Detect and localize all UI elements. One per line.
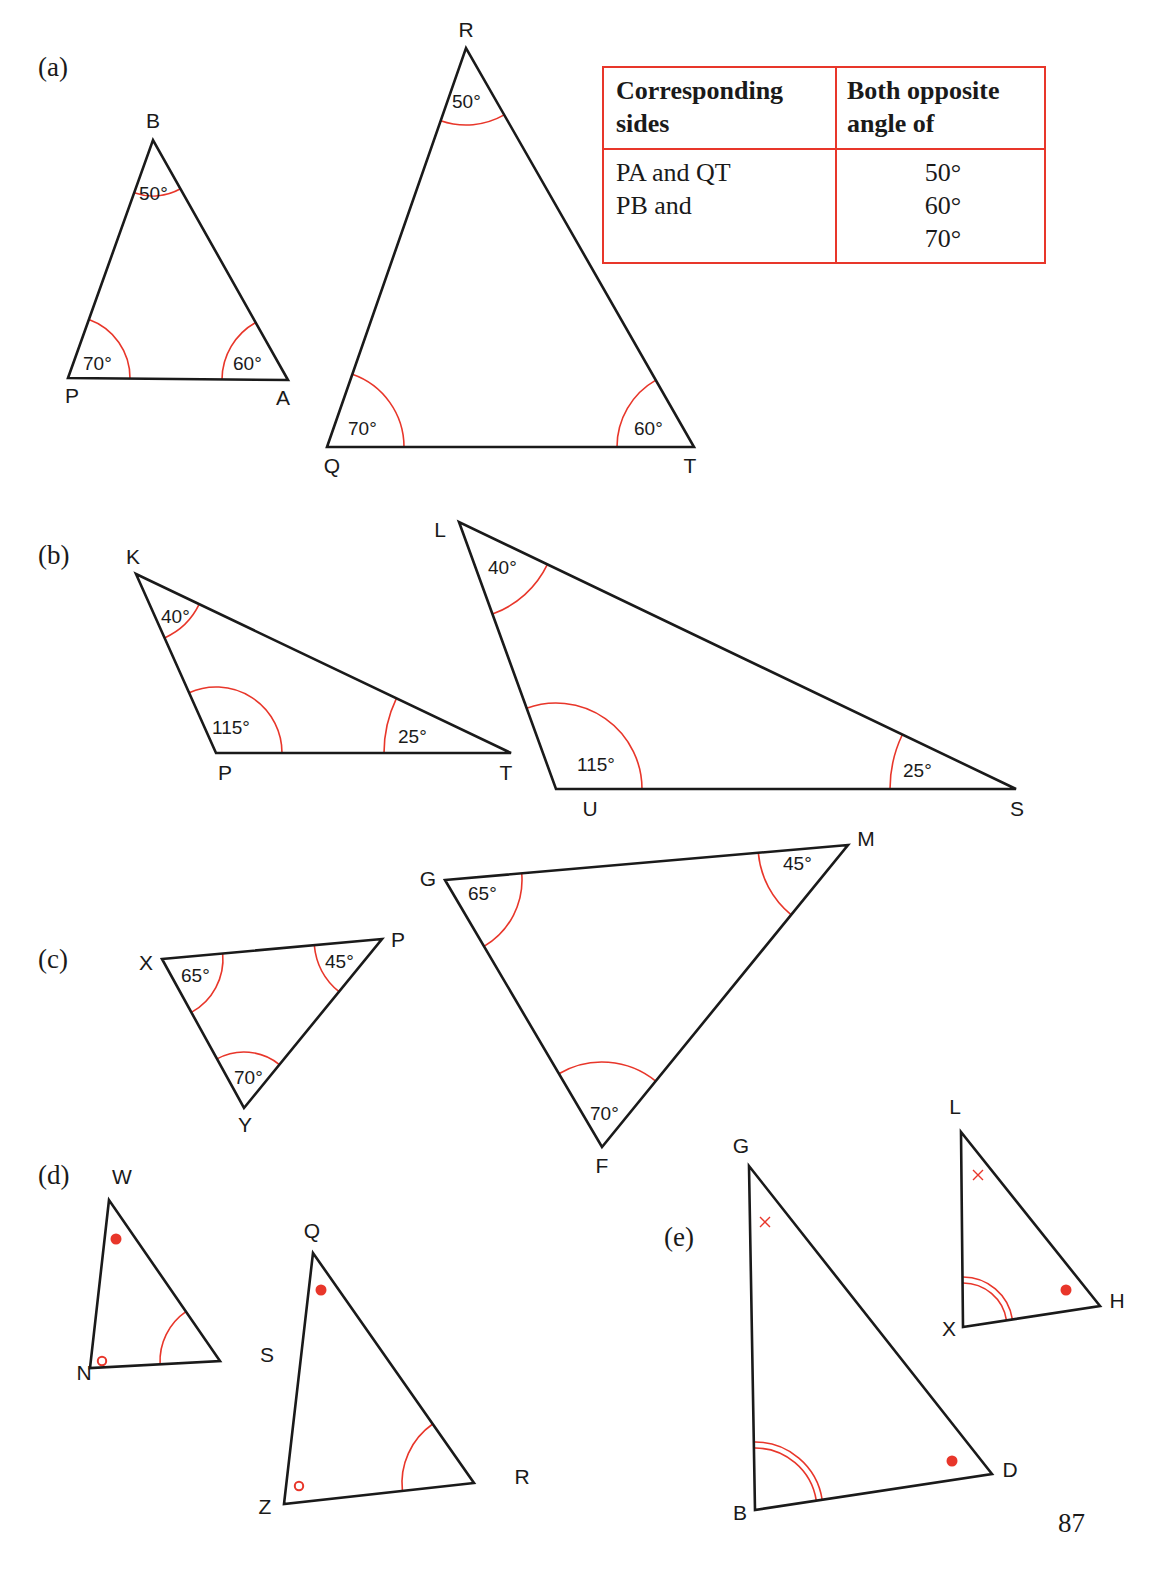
- angle-value-label: 25°: [398, 726, 427, 747]
- vertex-label-S: S: [1010, 797, 1024, 820]
- angle-value-label: 60°: [634, 418, 663, 439]
- table-column-angles: 50° 60° 70°: [904, 156, 982, 255]
- angle-value-label: 50°: [139, 183, 168, 204]
- triangle-outline: [136, 574, 511, 753]
- angle-value-label: 65°: [181, 965, 210, 986]
- triangle-outline: [284, 1253, 474, 1504]
- cross-marker-icon: [760, 1217, 770, 1227]
- vertex-label-N: N: [76, 1361, 91, 1384]
- angle-value-label: 60°: [233, 353, 262, 374]
- table-cell-angle: 50°: [904, 156, 982, 189]
- angle-arc-marker: [217, 1052, 279, 1065]
- vertex-label-P: P: [391, 928, 405, 951]
- triangle-GMF: 65°45°70°GMF: [420, 827, 875, 1177]
- angle-value-label: 70°: [590, 1103, 619, 1124]
- open-circle-marker-icon: [98, 1357, 106, 1365]
- triangle-WNS: WNS: [76, 1165, 274, 1384]
- vertex-label-K: K: [126, 545, 140, 568]
- vertex-label-R: R: [514, 1465, 529, 1488]
- table-cell-angle: 60°: [904, 189, 982, 222]
- triangle-QZR: QZR: [259, 1219, 530, 1518]
- vertex-label-B: B: [146, 109, 160, 132]
- vertex-label-R: R: [458, 18, 473, 41]
- vertex-label-G: G: [733, 1134, 749, 1157]
- table-cell-sides: PA and QT: [616, 156, 731, 189]
- vertex-label-F: F: [596, 1154, 609, 1177]
- vertex-label-B: B: [733, 1501, 747, 1524]
- angle-value-label: 115°: [212, 717, 250, 738]
- double-arc-marker: [754, 1442, 822, 1500]
- vertex-label-P: P: [218, 761, 232, 784]
- table-column-sides: PA and QT PB and: [616, 156, 731, 255]
- triangle-outline: [68, 140, 288, 380]
- vertex-label-Q: Q: [324, 454, 340, 477]
- vertex-label-T: T: [500, 761, 513, 784]
- vertex-label-L: L: [434, 518, 446, 541]
- vertex-label-Y: Y: [238, 1113, 252, 1136]
- triangle-XPY: 65°45°70°XPY: [139, 928, 405, 1136]
- double-arc-marker: [963, 1283, 1007, 1320]
- table-column-divider: [835, 68, 837, 262]
- part-label-e: (e): [664, 1222, 694, 1253]
- vertex-label-D: D: [1002, 1458, 1017, 1481]
- triangle-KPT: 40°115°25°KPT: [126, 545, 513, 784]
- angle-arc-marker: [441, 115, 505, 125]
- part-label-d: (d): [38, 1160, 69, 1191]
- triangle-outline: [961, 1132, 1100, 1327]
- triangle-outline: [90, 1200, 220, 1368]
- textbook-page: 70°50°60°PBA70°50°60°QRT40°115°25°KPT40°…: [0, 0, 1159, 1578]
- part-label-a: (a): [38, 52, 68, 83]
- angle-value-label: 40°: [488, 557, 517, 578]
- vertex-label-T: T: [684, 454, 697, 477]
- triangle-outline: [445, 845, 848, 1147]
- triangle-LUS: 40°115°25°LUS: [434, 518, 1024, 820]
- angle-arc-marker: [559, 1062, 656, 1081]
- filled-dot-marker-icon: [316, 1285, 327, 1296]
- vertex-label-X: X: [942, 1317, 956, 1340]
- angle-value-label: 40°: [161, 606, 190, 627]
- triangle-LXH: LXH: [942, 1095, 1125, 1340]
- triangle-GBD: GBD: [733, 1134, 1018, 1524]
- table-header-divider: [604, 148, 1044, 150]
- vertex-label-G: G: [420, 867, 436, 890]
- part-label-b: (b): [38, 540, 69, 571]
- vertex-label-Z: Z: [259, 1495, 272, 1518]
- table-header-corresponding-sides: Corresponding sides: [616, 74, 831, 140]
- vertex-label-M: M: [857, 827, 875, 850]
- angle-value-label: 115°: [577, 754, 615, 775]
- vertex-label-X: X: [139, 951, 153, 974]
- angle-arc-marker: [402, 1424, 433, 1491]
- table-header-opposite-angle: Both opposite angle of: [847, 74, 1042, 140]
- correspondence-table: Corresponding sides Both opposite angle …: [602, 66, 1046, 264]
- angle-value-label: 25°: [903, 760, 932, 781]
- cross-marker-icon: [973, 1170, 983, 1180]
- angle-arc-marker: [384, 698, 396, 753]
- vertex-label-S: S: [260, 1343, 274, 1366]
- filled-dot-marker-icon: [947, 1456, 958, 1467]
- open-circle-marker-icon: [295, 1482, 303, 1490]
- page-number: 87: [1058, 1508, 1085, 1539]
- vertex-label-L: L: [949, 1095, 961, 1118]
- table-cell-sides: PB and: [616, 189, 731, 222]
- vertex-label-W: W: [112, 1165, 132, 1188]
- triangle-PBA: 70°50°60°PBA: [65, 109, 290, 409]
- vertex-label-P: P: [65, 384, 79, 407]
- filled-dot-marker-icon: [111, 1234, 122, 1245]
- angle-value-label: 65°: [468, 883, 497, 904]
- table-cell-angle: 70°: [904, 222, 982, 255]
- angle-value-label: 70°: [234, 1067, 263, 1088]
- angle-value-label: 45°: [783, 853, 812, 874]
- angle-value-label: 50°: [452, 91, 481, 112]
- triangle-outline: [459, 522, 1016, 789]
- filled-dot-marker-icon: [1061, 1285, 1072, 1296]
- part-label-c: (c): [38, 944, 68, 975]
- vertex-label-A: A: [276, 386, 290, 409]
- vertex-label-U: U: [582, 797, 597, 820]
- vertex-label-Q: Q: [304, 1219, 320, 1242]
- angle-value-label: 45°: [325, 951, 354, 972]
- angle-arc-marker: [890, 735, 902, 790]
- angle-value-label: 70°: [348, 418, 377, 439]
- double-arc-marker: [754, 1448, 816, 1501]
- angle-value-label: 70°: [83, 353, 112, 374]
- angle-arc-marker: [527, 703, 642, 789]
